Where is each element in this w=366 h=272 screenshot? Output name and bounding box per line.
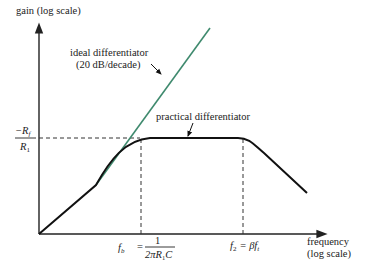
- ideal-slope-label: (20 dB/decade): [76, 59, 141, 71]
- svg-text:fb: fb: [118, 242, 125, 255]
- practical-differentiator-label: practical differentiator: [156, 111, 250, 122]
- ideal-differentiator-label: ideal differentiator: [70, 47, 149, 58]
- svg-text:R1: R1: [19, 141, 30, 154]
- svg-text:−Rf: −Rf: [15, 125, 32, 138]
- svg-text:2πR1C: 2πR1C: [145, 249, 173, 261]
- x-axis-label-scale: (log scale): [307, 248, 352, 260]
- practical-differentiator-curve: [39, 138, 307, 234]
- svg-text:f2= βft: f2= βft: [230, 240, 260, 253]
- gain-level-label: −Rf R1: [15, 125, 36, 154]
- x-axis-label: frequency: [307, 236, 350, 247]
- fb-label: fb = 1 2πR1C: [118, 235, 175, 261]
- ideal-pointer-arrow: [151, 64, 161, 74]
- practical-pointer-arrow: [188, 123, 193, 136]
- differentiator-bode-diagram: gain (log scale) −Rf R1 ideal differenti…: [0, 0, 366, 272]
- svg-text:=: =: [137, 241, 143, 252]
- svg-text:1: 1: [155, 235, 160, 246]
- y-axis-label: gain (log scale): [16, 5, 81, 17]
- f2-label: f2= βft: [230, 240, 260, 253]
